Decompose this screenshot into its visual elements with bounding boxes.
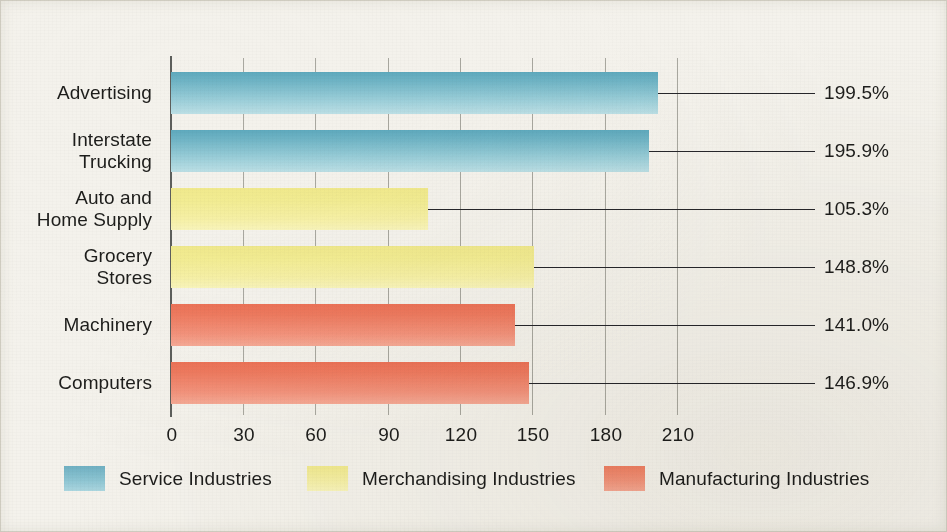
- legend-item-service-industries: Service Industries: [64, 466, 272, 491]
- legend-label-service-industries: Service Industries: [119, 468, 272, 490]
- leader-line-auto-and-home-supply: [428, 209, 815, 210]
- bar-auto-and-home-supply: [171, 188, 428, 230]
- bar-computers: [171, 362, 529, 404]
- legend-swatch-service-industries: [64, 466, 105, 491]
- legend-swatch-manufacturing-industries: [604, 466, 645, 491]
- bar-machinery: [171, 304, 515, 346]
- category-label-interstate-trucking: Interstate Trucking: [12, 129, 152, 173]
- value-label-machinery: 141.0%: [824, 314, 889, 336]
- category-label-machinery: Machinery: [12, 314, 152, 336]
- leader-line-machinery: [515, 325, 815, 326]
- category-label-auto-and-home-supply: Auto and Home Supply: [12, 187, 152, 231]
- xtick-label-0: 0: [167, 424, 178, 446]
- legend-label-manufacturing-industries: Manufacturing Industries: [659, 468, 869, 490]
- xtick-label-60: 60: [305, 424, 327, 446]
- xtick-label-120: 120: [445, 424, 477, 446]
- category-label-computers: Computers: [12, 372, 152, 394]
- xtick-label-210: 210: [662, 424, 694, 446]
- bar-interstate-trucking: [171, 130, 649, 172]
- bar-grocery-stores: [171, 246, 534, 288]
- legend-label-merchandising-industries: Merchandising Industries: [362, 468, 576, 490]
- value-label-auto-and-home-supply: 105.3%: [824, 198, 889, 220]
- category-label-grocery-stores: Grocery Stores: [12, 245, 152, 289]
- chart-legend: Service Industries Merchandising Industr…: [0, 462, 947, 502]
- value-label-interstate-trucking: 195.9%: [824, 140, 889, 162]
- legend-item-merchandising-industries: Merchandising Industries: [307, 466, 576, 491]
- legend-item-manufacturing-industries: Manufacturing Industries: [604, 466, 869, 491]
- value-label-grocery-stores: 148.8%: [824, 256, 889, 278]
- bar-advertising: [171, 72, 658, 114]
- bar-chart-figure: Advertising Interstate Trucking Auto and…: [0, 0, 947, 532]
- xtick-label-150: 150: [517, 424, 549, 446]
- gridline-210: [677, 58, 678, 415]
- leader-line-grocery-stores: [534, 267, 815, 268]
- xtick-label-30: 30: [233, 424, 255, 446]
- value-label-computers: 146.9%: [824, 372, 889, 394]
- leader-line-advertising: [658, 93, 815, 94]
- category-label-advertising: Advertising: [12, 82, 152, 104]
- leader-line-interstate-trucking: [649, 151, 815, 152]
- value-label-advertising: 199.5%: [824, 82, 889, 104]
- legend-swatch-merchandising-industries: [307, 466, 348, 491]
- xtick-label-180: 180: [590, 424, 622, 446]
- xtick-label-90: 90: [378, 424, 400, 446]
- plot-area: Advertising Interstate Trucking Auto and…: [0, 0, 947, 532]
- leader-line-computers: [529, 383, 815, 384]
